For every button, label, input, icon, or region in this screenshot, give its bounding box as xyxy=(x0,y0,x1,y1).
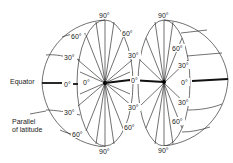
right-parallel-n60 xyxy=(181,30,207,33)
left-label-s60: 60° xyxy=(72,131,83,138)
left-label-s30: 30° xyxy=(64,109,75,116)
left-label-disc-equator: 0° xyxy=(83,79,90,86)
parallel-label-line1: Parallel xyxy=(12,118,36,125)
right-center-dot xyxy=(162,80,166,84)
hemisphere-diagram: 90° 60° 30° 0° 0° 30° 60° 90° 60° 30° 30… xyxy=(0,0,233,163)
left-label-n30: 30° xyxy=(64,54,75,61)
right-label-s60: 60° xyxy=(172,118,183,125)
right-parallel-s30 xyxy=(188,104,222,110)
left-label-ne30: 30° xyxy=(128,52,139,59)
right-label-bottom: 90° xyxy=(158,147,169,154)
left-label-ne60: 60° xyxy=(122,30,133,37)
globe-diagram-svg: 90° 60° 30° 0° 0° 30° 60° 90° 60° 30° 30… xyxy=(0,0,233,163)
right-label-s30: 30° xyxy=(178,99,189,106)
right-outer-arc xyxy=(164,20,228,146)
right-parallel-n30 xyxy=(187,53,222,56)
left-label-top: 90° xyxy=(99,12,110,19)
left-label-se60: 60° xyxy=(124,124,135,131)
right-equator-outer xyxy=(192,79,228,81)
left-label-se30: 30° xyxy=(128,104,139,111)
left-label-n60: 60° xyxy=(71,33,82,40)
right-label-west-equator: 0° xyxy=(131,77,138,84)
right-label-n60: 60° xyxy=(172,45,183,52)
parallel-label-line2: of latitude xyxy=(12,126,42,133)
equator-label: Equator xyxy=(10,78,35,86)
right-label-n30: 30° xyxy=(178,62,189,69)
left-label-outer-equator: 0° xyxy=(64,81,71,88)
parallel-pointer xyxy=(30,111,46,114)
left-label-bottom: 90° xyxy=(99,148,110,155)
right-label-east-equator: 0° xyxy=(181,79,188,86)
right-label-top: 90° xyxy=(158,12,169,19)
